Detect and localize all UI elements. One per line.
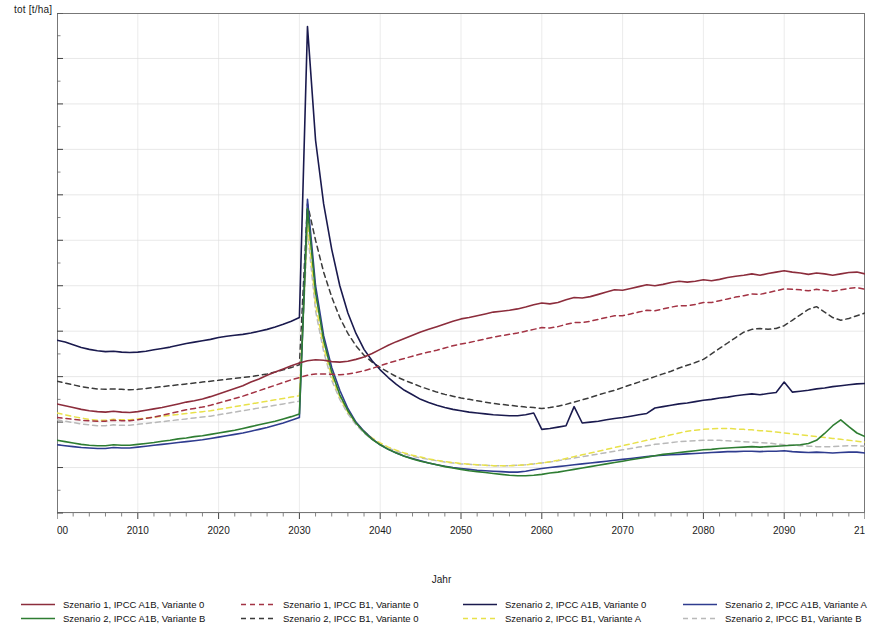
legend-label: Szenario 2, IPCC A1B, Variante B <box>63 613 205 624</box>
x-tick-label: 2100 <box>854 525 865 536</box>
legend-swatch-icon <box>682 599 718 610</box>
legend-label: Szenario 2, IPCC A1B, Variante 0 <box>505 599 646 610</box>
legend-item: Szenario 2, IPCC A1B, Variante 0 <box>462 598 646 611</box>
legend-swatch-icon <box>462 613 498 624</box>
legend-swatch-icon <box>682 613 718 624</box>
plot-area: 6070809010011012013014015016017020002010… <box>57 13 865 538</box>
legend-item: Szenario 2, IPCC B1, Variante B <box>682 612 862 625</box>
legend-label: Szenario 1, IPCC A1B, Variante 0 <box>63 599 204 610</box>
chart-legend: Szenario 1, IPCC A1B, Variante 0Szenario… <box>0 596 883 630</box>
x-axis-label: Jahr <box>0 574 883 585</box>
plot-svg: 6070809010011012013014015016017020002010… <box>57 13 865 538</box>
legend-label: Szenario 1, IPCC B1, Variante 0 <box>283 599 419 610</box>
legend-label: Szenario 2, IPCC B1, Variante A <box>505 613 641 624</box>
legend-item: Szenario 2, IPCC A1B, Variante A <box>682 598 867 611</box>
x-tick-label: 2040 <box>369 525 392 536</box>
x-tick-label: 2010 <box>127 525 150 536</box>
legend-swatch-icon <box>240 613 276 624</box>
legend-swatch-icon <box>462 599 498 610</box>
legend-row-2: Szenario 2, IPCC A1B, Variante BSzenario… <box>0 612 883 625</box>
x-tick-label: 2020 <box>207 525 230 536</box>
legend-swatch-icon <box>240 599 276 610</box>
legend-item: Szenario 1, IPCC A1B, Variante 0 <box>20 598 204 611</box>
x-tick-label: 2070 <box>611 525 634 536</box>
legend-item: Szenario 1, IPCC B1, Variante 0 <box>240 598 419 611</box>
legend-item: Szenario 2, IPCC B1, Variante A <box>462 612 641 625</box>
legend-label: Szenario 2, IPCC A1B, Variante A <box>725 599 867 610</box>
y-axis-label: tot [t/ha] <box>14 4 52 15</box>
legend-label: Szenario 2, IPCC B1, Variante B <box>725 613 862 624</box>
x-tick-label: 2080 <box>692 525 715 536</box>
legend-swatch-icon <box>20 613 56 624</box>
legend-item: Szenario 2, IPCC B1, Variante 0 <box>240 612 419 625</box>
x-tick-label: 2090 <box>773 525 796 536</box>
legend-row-1: Szenario 1, IPCC A1B, Variante 0Szenario… <box>0 598 883 611</box>
legend-item: Szenario 2, IPCC A1B, Variante B <box>20 612 205 625</box>
legend-label: Szenario 2, IPCC B1, Variante 0 <box>283 613 419 624</box>
legend-swatch-icon <box>20 599 56 610</box>
chart-page: tot [t/ha] 60708090100110120130140150160… <box>0 0 883 630</box>
x-tick-label: 2030 <box>288 525 311 536</box>
x-tick-label: 2000 <box>57 525 69 536</box>
x-tick-label: 2050 <box>450 525 473 536</box>
x-tick-label: 2060 <box>531 525 554 536</box>
